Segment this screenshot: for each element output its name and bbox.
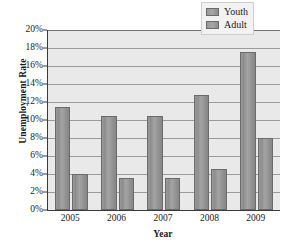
legend: YouthAdult	[201, 2, 254, 35]
legend-swatch-icon	[206, 8, 219, 16]
bar-group	[234, 30, 280, 210]
bar-group	[187, 30, 233, 210]
bar-group	[94, 30, 140, 210]
bar-chart: Unemployment Rate 0%2%4%6%8%10%12%14%16%…	[0, 0, 289, 249]
bar-group	[141, 30, 187, 210]
bar-youth-2006	[101, 116, 117, 211]
bar-youth-2009	[240, 52, 256, 210]
x-axis-tick-label: 2006	[107, 213, 126, 224]
y-axis-tick-label: 4%	[2, 169, 43, 179]
x-axis-tick-labels: 20052006200720082009	[47, 213, 279, 229]
legend-item-adult: Adult	[206, 18, 248, 31]
y-axis-tick-label: 14%	[2, 79, 43, 89]
bar-youth-2005	[55, 107, 71, 210]
y-axis-tick-label: 18%	[2, 43, 43, 53]
plot-area	[47, 30, 280, 211]
y-axis-tick-label: 10%	[2, 115, 43, 125]
y-axis-tick-label: 12%	[2, 97, 43, 107]
x-axis-tick-label: 2008	[200, 213, 219, 224]
bar-group	[48, 30, 94, 210]
y-axis-tick-label: 8%	[2, 133, 43, 143]
legend-label: Adult	[224, 19, 247, 30]
legend-label: Youth	[224, 6, 248, 17]
bar-adult-2009	[258, 138, 274, 210]
bar-youth-2007	[147, 116, 163, 211]
bar-adult-2007	[165, 178, 181, 210]
bar-adult-2006	[119, 178, 135, 210]
legend-swatch-icon	[206, 21, 219, 29]
y-axis-tick-label: 0%	[2, 205, 43, 215]
bar-youth-2008	[194, 95, 210, 210]
x-axis-tick-label: 2007	[154, 213, 173, 224]
x-axis-tick-label: 2009	[246, 213, 265, 224]
x-axis-title: Year	[47, 229, 279, 239]
bar-adult-2008	[211, 169, 227, 210]
bar-adult-2005	[72, 174, 88, 210]
y-axis-tick-label: 16%	[2, 61, 43, 71]
y-axis-tick-label: 20%	[2, 25, 43, 35]
y-axis-tick-label: 2%	[2, 187, 43, 197]
y-axis-tick-label: 6%	[2, 151, 43, 161]
legend-item-youth: Youth	[206, 5, 248, 18]
x-axis-tick-label: 2005	[61, 213, 80, 224]
